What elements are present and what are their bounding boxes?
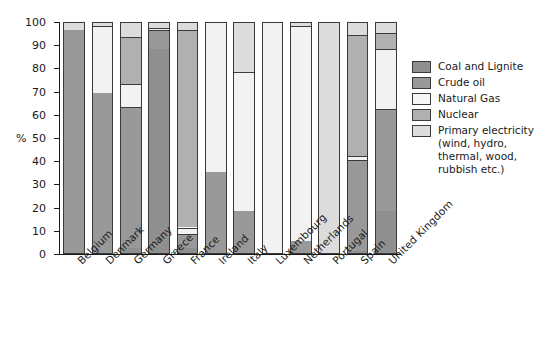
stacked-bar [375, 22, 397, 254]
stacked-bar [205, 22, 227, 254]
bar-segment [93, 22, 113, 26]
bar-segment [348, 22, 368, 35]
chart-root: % 0102030405060708090100 BelgiumDenmarkG… [0, 0, 539, 337]
y-axis-tick [54, 231, 59, 232]
legend-swatch [412, 77, 431, 89]
bar-segment [234, 72, 254, 211]
y-axis-tick [54, 184, 59, 185]
legend-label: Coal and Lignite [438, 60, 523, 73]
chart-legend: Coal and LigniteCrude oilNatural GasNucl… [412, 60, 538, 179]
y-axis-tick-label: 90 [32, 40, 46, 51]
y-axis-tick-labels: 0102030405060708090100 [0, 22, 54, 254]
y-axis-tick-label: 20 [32, 202, 46, 213]
bar-segment [121, 84, 141, 107]
legend-swatch [412, 109, 431, 121]
bar-segment [291, 22, 311, 26]
y-axis-tick [54, 45, 59, 46]
y-axis-tick [54, 92, 59, 93]
bar-segment [149, 28, 169, 30]
bar-segment [149, 22, 169, 28]
y-axis-tick [54, 115, 59, 116]
legend-item: Crude oil [412, 76, 538, 89]
bar-segment [348, 35, 368, 156]
bar-segment [64, 30, 84, 253]
stacked-bar [233, 22, 255, 254]
legend-item: Nuclear [412, 108, 538, 121]
legend-sublabel: (wind, hydro, thermal, wood, rubbish etc… [438, 137, 538, 176]
legend-swatch [412, 61, 431, 73]
legend-item: Coal and Lignite [412, 60, 538, 73]
y-axis-tick-label: 40 [32, 156, 46, 167]
y-axis-tick-label: 0 [39, 249, 46, 260]
bar-segment [121, 22, 141, 37]
bar-segment [178, 30, 198, 227]
y-axis-tick [54, 208, 59, 209]
stacked-bar [290, 22, 312, 254]
stacked-bar [177, 22, 199, 254]
y-axis-tick-label: 70 [32, 86, 46, 97]
legend-label: Crude oil [438, 76, 485, 89]
y-axis-tick [54, 161, 59, 162]
bar-segment [234, 22, 254, 72]
bar-segment [376, 109, 396, 211]
bar-segment [178, 22, 198, 30]
bar-segment [376, 22, 396, 33]
bar-segment [93, 26, 113, 93]
legend-swatch [412, 93, 431, 105]
legend-label: Primary electricity(wind, hydro, thermal… [438, 124, 538, 176]
y-axis-tick [54, 138, 59, 139]
bar-segment [206, 22, 226, 172]
stacked-bar [262, 22, 284, 254]
bar-segment [291, 26, 311, 242]
bar-segment [376, 33, 396, 49]
bar-segment [121, 37, 141, 83]
bar-segment [376, 49, 396, 109]
y-axis-tick-label: 30 [32, 179, 46, 190]
y-axis-tick-label: 10 [32, 225, 46, 236]
bar-segment [64, 22, 84, 30]
bar-segment [263, 22, 283, 253]
stacked-bar [63, 22, 85, 254]
y-axis-tick-label: 60 [32, 109, 46, 120]
y-axis-tick-label: 80 [32, 63, 46, 74]
y-axis-tick-label: 50 [32, 133, 46, 144]
stacked-bar [120, 22, 142, 254]
bar-segment [149, 49, 169, 253]
stacked-bar [92, 22, 114, 254]
legend-item: Natural Gas [412, 92, 538, 105]
bar-segment [149, 30, 169, 49]
stacked-bar [148, 22, 170, 254]
y-axis-tick-label: 100 [25, 17, 46, 28]
y-axis-tick [54, 22, 59, 23]
legend-label: Nuclear [438, 108, 478, 121]
y-axis-tick [54, 68, 59, 69]
bar-segment [348, 156, 368, 161]
legend-label: Natural Gas [438, 92, 500, 105]
legend-item: Primary electricity(wind, hydro, thermal… [412, 124, 538, 176]
legend-swatch [412, 125, 431, 137]
